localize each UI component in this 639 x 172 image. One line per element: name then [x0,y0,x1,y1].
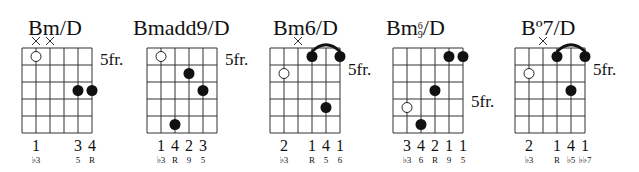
finger-dot-icon [444,51,455,62]
chord-diagram: Bm69/D5fr.34211♭36R95 [370,0,500,172]
scale-degree: ♭♭7 [579,156,592,165]
finger-number: 2 [431,138,439,154]
fretboard-grid [260,33,350,148]
finger-number: 4 [88,138,96,154]
fret-position-label: 5fr. [225,50,248,70]
scale-degree: 9 [187,156,192,165]
finger-dot-icon [170,119,181,130]
finger-number: 3 [199,138,207,154]
open-note-icon [279,69,289,79]
finger-dot-icon [198,85,209,96]
fretboard-grid [505,33,595,148]
scale-degree: ♭3 [280,156,289,165]
chord-diagram: Bm/D5fr.134♭35R [0,0,130,172]
scale-degree: ♭3 [157,156,166,165]
finger-dot-icon [307,51,318,62]
finger-dot-icon [458,51,469,62]
scale-degree: 5 [76,156,81,165]
scale-degree: R [309,156,315,165]
finger-dot-icon [552,51,563,62]
finger-dot-icon [73,85,84,96]
finger-number: 2 [280,138,288,154]
finger-number: 1 [336,138,344,154]
open-note-icon [156,52,166,62]
scale-degree: ♭5 [567,156,576,165]
finger-number: 1 [459,138,467,154]
finger-dot-icon [87,85,98,96]
finger-number: 4 [417,138,425,154]
scale-degree: R [89,156,95,165]
scale-degree: ♭3 [32,156,41,165]
fret-position-label: 5fr. [348,60,371,80]
chord-diagram: Bº7/D5fr.2141♭3R♭5♭♭7 [505,0,635,172]
finger-number: 2 [525,138,533,154]
finger-number: 2 [185,138,193,154]
chord-diagram: Bm6/D5fr.2141♭3R56 [250,0,380,172]
scale-degree: 6 [338,156,343,165]
finger-dot-icon [580,51,591,62]
finger-number: 4 [322,138,330,154]
finger-number: 1 [581,138,589,154]
finger-number: 1 [445,138,453,154]
scale-degree: 5 [461,156,466,165]
finger-dot-icon [566,85,577,96]
finger-number: 1 [32,138,40,154]
finger-number: 4 [567,138,575,154]
finger-number: 3 [403,138,411,154]
fretboard-grid [137,33,227,148]
scale-degree: ♭3 [525,156,534,165]
chord-diagram: Bmadd9/D5fr.1423♭3R95 [125,0,255,172]
fret-position-label: 5fr. [593,60,616,80]
scale-degree: R [172,156,178,165]
scale-degree: 6 [419,156,424,165]
finger-number: 4 [171,138,179,154]
fretboard-grid [383,33,473,148]
finger-dot-icon [184,68,195,79]
finger-dot-icon [335,51,346,62]
finger-dot-icon [430,85,441,96]
scale-degree: R [432,156,438,165]
fretboard-grid [12,33,102,148]
open-note-icon [524,69,534,79]
finger-number: 1 [553,138,561,154]
scale-degree: 5 [201,156,206,165]
open-note-icon [31,52,41,62]
fret-position-label: 5fr. [100,50,123,70]
finger-dot-icon [321,102,332,113]
scale-degree: 5 [324,156,329,165]
scale-degree: 9 [447,156,452,165]
scale-degree: R [554,156,560,165]
fret-position-label: 5fr. [471,92,494,112]
finger-number: 1 [157,138,165,154]
scale-degree: ♭3 [403,156,412,165]
finger-number: 3 [74,138,82,154]
finger-number: 1 [308,138,316,154]
open-note-icon [402,103,412,113]
finger-dot-icon [416,119,427,130]
